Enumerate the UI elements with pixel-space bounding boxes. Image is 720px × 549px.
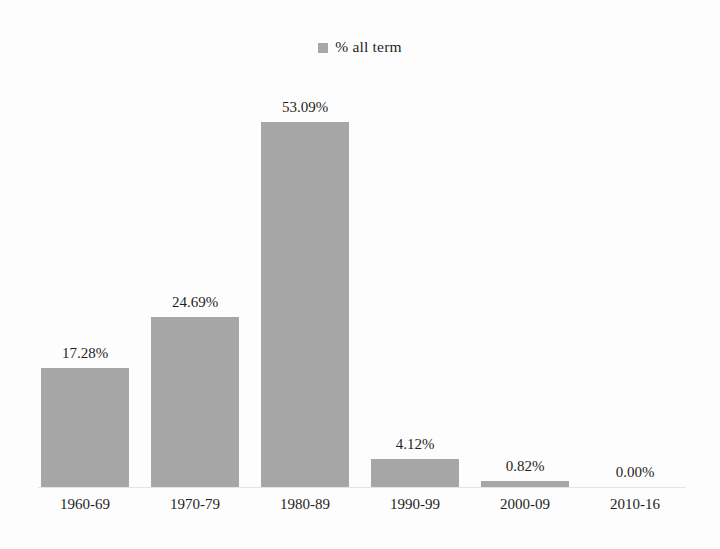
bar-group: 17.28% 24.69% 53.09% 4.12% 0.82% 0.00%: [30, 82, 690, 487]
bar-value-label-2010-16: 0.00%: [616, 465, 655, 480]
bar-value-label-1960-69: 17.28%: [62, 346, 108, 361]
x-tick-1990-99: 1990-99: [360, 496, 470, 513]
x-tick-2000-09: 2000-09: [470, 496, 580, 513]
plot-area: 17.28% 24.69% 53.09% 4.12% 0.82% 0.00%: [30, 82, 690, 488]
chart-legend: % all term: [0, 38, 720, 56]
bar-value-label-2000-09: 0.82%: [506, 459, 545, 474]
bar-rect-1960-69[interactable]: [41, 368, 129, 487]
bar-slot-1980-89: 53.09%: [250, 82, 360, 487]
x-tick-1980-89: 1980-89: [250, 496, 360, 513]
bar-slot-1970-79: 24.69%: [140, 82, 250, 487]
legend-label-all-term: % all term: [335, 38, 402, 56]
x-tick-1960-69: 1960-69: [30, 496, 140, 513]
bar-slot-1990-99: 4.12%: [360, 82, 470, 487]
bar-slot-1960-69: 17.28%: [30, 82, 140, 487]
bar-rect-1970-79[interactable]: [151, 317, 239, 487]
bar-rect-1980-89[interactable]: [261, 122, 349, 487]
bar-chart: % all term 17.28% 24.69% 53.09% 4.12%: [0, 0, 720, 549]
x-tick-1970-79: 1970-79: [140, 496, 250, 513]
bar-slot-2000-09: 0.82%: [470, 82, 580, 487]
bar-slot-2010-16: 0.00%: [580, 82, 690, 487]
bar-rect-1990-99[interactable]: [371, 459, 459, 487]
x-tick-2010-16: 2010-16: [580, 496, 690, 513]
bar-value-label-1990-99: 4.12%: [396, 437, 435, 452]
axis-baseline: [38, 487, 686, 488]
x-axis-tick-labels: 1960-69 1970-79 1980-89 1990-99 2000-09 …: [30, 496, 690, 513]
bar-value-label-1970-79: 24.69%: [172, 295, 218, 310]
bar-value-label-1980-89: 53.09%: [282, 100, 328, 115]
bar-rect-2000-09[interactable]: [481, 481, 569, 487]
legend-swatch-all-term: [318, 43, 328, 53]
